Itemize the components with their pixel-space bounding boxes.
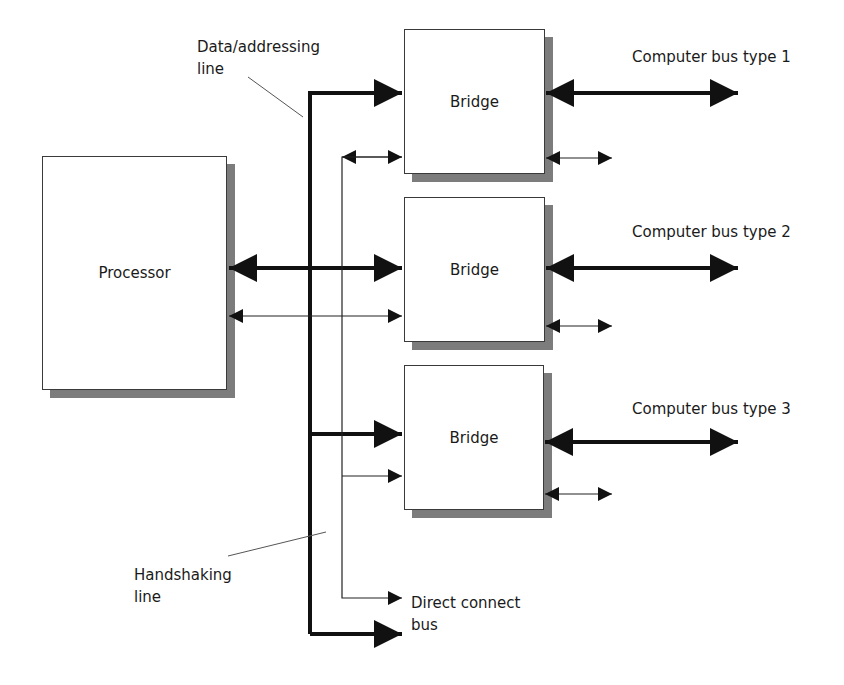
bridge-box-1: Bridge (404, 29, 545, 174)
handshaking-line-label: Handshaking line (134, 564, 232, 608)
bridge-side-arrows (545, 158, 612, 494)
direct-connect-bus-label: Direct connect bus (411, 592, 520, 636)
annotation-leaders (228, 77, 326, 556)
bridge-box-2: Bridge (404, 197, 545, 342)
processor-label: Processor (98, 264, 170, 282)
bus-label-2: Computer bus type 2 (632, 221, 791, 243)
computer-bus-arrows (545, 93, 738, 442)
handshaking-bus (229, 157, 402, 598)
bridge-label: Bridge (450, 429, 499, 447)
bridge-label: Bridge (450, 93, 499, 111)
bus-architecture-diagram: Processor Bridge Bridge Bridge (0, 0, 844, 685)
data-addressing-line-label: Data/addressing line (197, 36, 320, 80)
bridge-box-3: Bridge (404, 365, 544, 510)
bus-label-3: Computer bus type 3 (632, 398, 791, 420)
processor-box: Processor (42, 156, 227, 390)
bridge-label: Bridge (450, 261, 499, 279)
bus-label-1: Computer bus type 1 (632, 46, 791, 68)
data-addressing-bus (229, 93, 402, 634)
